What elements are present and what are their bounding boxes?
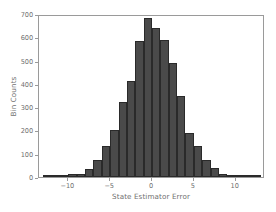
histogram-bar bbox=[144, 18, 152, 178]
histogram-bar bbox=[227, 175, 235, 177]
y-axis-label: Bin Counts bbox=[9, 15, 20, 178]
histogram-bar bbox=[177, 96, 185, 177]
histogram-bar bbox=[68, 174, 76, 177]
x-axis-tick-label: −5 bbox=[104, 182, 114, 190]
histogram-bar bbox=[211, 168, 219, 177]
histogram-bar bbox=[152, 28, 160, 177]
histogram-bar bbox=[135, 41, 143, 177]
histogram-figure: 0100200300400500600700 −10−50510 State E… bbox=[0, 0, 276, 212]
histogram-bar bbox=[202, 160, 210, 177]
y-axis-tick-label: 700 bbox=[21, 11, 33, 19]
histogram-bar bbox=[169, 63, 177, 177]
histogram-bars bbox=[39, 16, 263, 177]
x-axis-tick-label: 0 bbox=[149, 182, 153, 190]
histogram-bar bbox=[219, 174, 227, 177]
y-axis-tick-label: 500 bbox=[21, 58, 33, 66]
histogram-bar bbox=[252, 175, 260, 177]
histogram-bar bbox=[102, 146, 110, 177]
y-axis-tick-label: 200 bbox=[21, 127, 33, 135]
x-axis-tick-label: 10 bbox=[231, 182, 239, 190]
y-axis-tick-label: 100 bbox=[21, 151, 33, 159]
x-axis-label: State Estimator Error bbox=[38, 192, 264, 201]
x-axis-tick-mark bbox=[109, 178, 110, 181]
x-axis-tick-mark bbox=[235, 178, 236, 181]
histogram-bar bbox=[93, 160, 101, 177]
histogram-bar bbox=[244, 175, 252, 177]
histogram-bar bbox=[52, 175, 60, 177]
histogram-bar bbox=[60, 175, 68, 177]
y-axis-tick-label: 300 bbox=[21, 104, 33, 112]
x-axis-tick-label: 5 bbox=[191, 182, 195, 190]
histogram-bar bbox=[77, 174, 85, 177]
histogram-bar bbox=[43, 175, 51, 177]
y-axis-tick-label: 400 bbox=[21, 81, 33, 89]
y-axis-tick-label: 0 bbox=[29, 174, 33, 182]
histogram-bar bbox=[194, 146, 202, 177]
histogram-bar bbox=[119, 102, 127, 177]
histogram-bar bbox=[185, 133, 193, 177]
y-axis-tick-label: 600 bbox=[21, 34, 33, 42]
histogram-bar bbox=[160, 40, 168, 177]
x-axis-tick-mark bbox=[67, 178, 68, 181]
x-axis-tick-mark bbox=[151, 178, 152, 181]
histogram-bar bbox=[110, 130, 118, 177]
x-axis-tick-label: −10 bbox=[60, 182, 74, 190]
histogram-bar bbox=[127, 81, 135, 177]
histogram-bar bbox=[236, 175, 244, 177]
histogram-bar bbox=[85, 169, 93, 177]
x-axis-tick-mark bbox=[193, 178, 194, 181]
plot-area bbox=[38, 15, 264, 178]
